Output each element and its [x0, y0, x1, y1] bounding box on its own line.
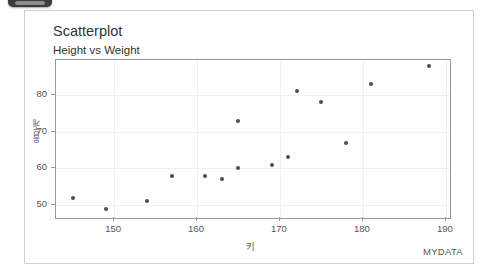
data-point [286, 155, 290, 159]
gridline-horizontal [56, 132, 450, 133]
data-point [145, 199, 149, 203]
toolbar-chip[interactable] [8, 0, 52, 7]
x-axis-tick [113, 217, 114, 221]
gridline-horizontal [56, 168, 450, 169]
dataset-label: MYDATA [423, 246, 463, 257]
y-axis-tick-label: 70 [21, 125, 47, 136]
y-axis-tick [51, 131, 55, 132]
x-axis-tick-label: 170 [259, 223, 299, 234]
x-axis-tick [279, 217, 280, 221]
x-axis-tick [445, 217, 446, 221]
data-point [220, 177, 224, 181]
y-axis-tick [51, 204, 55, 205]
gridline-vertical [363, 60, 364, 218]
y-axis-tick-label: 60 [21, 161, 47, 172]
data-point [71, 196, 75, 200]
data-point [427, 64, 431, 68]
x-axis-tick-label: 150 [93, 223, 133, 234]
data-point [236, 119, 240, 123]
data-point [295, 89, 299, 93]
y-axis-tick [51, 167, 55, 168]
gridline-vertical [280, 60, 281, 218]
gridline-vertical [446, 60, 447, 218]
x-axis-tick-label: 180 [342, 223, 382, 234]
data-point [270, 163, 274, 167]
gridline-horizontal [56, 205, 450, 206]
gridline-horizontal [56, 95, 450, 96]
data-point [104, 207, 108, 211]
x-axis-title: 키 [25, 239, 475, 253]
page-title: Scatterplot [53, 23, 122, 39]
x-axis-tick [362, 217, 363, 221]
gridline-vertical [114, 60, 115, 218]
chart-card: Scatterplot Height vs Weight 몸무게 5060708… [24, 10, 474, 264]
data-point [319, 100, 323, 104]
data-point [344, 141, 348, 145]
chart-subtitle: Height vs Weight [53, 44, 140, 56]
y-axis-tick-label: 50 [21, 198, 47, 209]
x-axis-tick-label: 190 [425, 223, 465, 234]
data-point [236, 166, 240, 170]
scatter-plot-area [55, 59, 451, 219]
data-point [203, 174, 207, 178]
x-axis-tick [196, 217, 197, 221]
x-axis-tick-label: 160 [176, 223, 216, 234]
gridline-vertical [197, 60, 198, 218]
data-point [170, 174, 174, 178]
data-point [369, 82, 373, 86]
toolbar-chip-inner [15, 1, 45, 5]
y-axis-tick-label: 80 [21, 88, 47, 99]
y-axis-tick [51, 94, 55, 95]
